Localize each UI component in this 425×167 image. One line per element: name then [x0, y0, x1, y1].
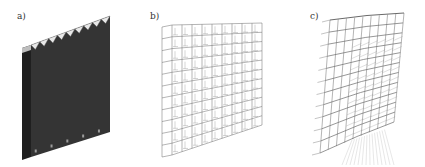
solid-building-model: [0, 0, 140, 167]
panel-c: c): [282, 0, 425, 167]
wireframe-model-undeformed: [140, 0, 282, 167]
wireframe-model-deformed: [282, 0, 425, 167]
panel-b: b): [140, 0, 282, 167]
panel-a: a): [0, 0, 140, 167]
